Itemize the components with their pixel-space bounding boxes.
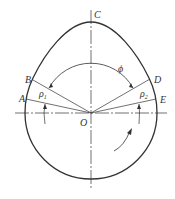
rho2-subscript: 2 — [145, 94, 148, 100]
label-A: A — [18, 93, 26, 104]
label-phi: ϕ — [118, 63, 123, 74]
label-B: B — [25, 74, 31, 85]
phi-arrowhead-left — [49, 83, 53, 88]
angle-arrowhead-left — [43, 104, 47, 109]
label-O: O — [80, 117, 87, 128]
label-E: E — [159, 94, 166, 105]
rotation-arrow — [114, 131, 130, 151]
phi-arrowhead-right — [129, 83, 133, 88]
label-C: C — [94, 9, 101, 20]
radius-line-OA — [26, 99, 91, 113]
rotation-arrowhead — [127, 128, 132, 135]
label-rho2: ρ2 — [139, 88, 148, 100]
cam-profile-diagram: C B A D E O ϕ ρ1 ρ2 — [0, 0, 175, 199]
angle-arrowhead-right — [137, 104, 141, 109]
radius-line-OE — [91, 99, 156, 113]
rho1-subscript: 1 — [44, 94, 47, 100]
label-D: D — [153, 74, 162, 85]
label-rho1: ρ1 — [38, 88, 47, 100]
